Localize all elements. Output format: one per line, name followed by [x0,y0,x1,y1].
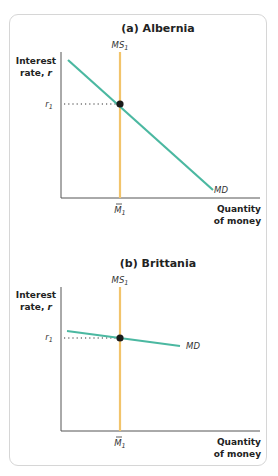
x-axis-label-line2: of money [214,216,261,226]
y-axis-label-line1: Interest [16,56,57,66]
y-axis-label-line2: rate, r [20,302,52,312]
md-label: MD [186,341,200,351]
panel-brittania: (b) Brittania Interest rate, r MS1 r1 MD… [16,257,261,459]
y-axis-label-line2: rate, r [20,68,52,78]
r1-label: r1 [45,332,53,344]
ms-label: MS1 [112,40,129,52]
equilibrium-point [116,100,123,107]
x-axis-label-line1: Quantity [217,204,261,214]
m1-label: M1 [114,205,125,217]
panel-title: (b) Brittania [120,257,196,270]
r1-label: r1 [45,99,53,111]
chart-canvas: (a) Albernia Interest rate, r MS1 r1 MD … [0,0,278,476]
panel-title: (a) Albernia [121,22,194,35]
equilibrium-point [116,334,123,341]
m1-label: M1 [114,438,125,450]
y-axis-label-line1: Interest [16,290,57,300]
x-axis-label-line1: Quantity [217,437,261,447]
panel-albernia: (a) Albernia Interest rate, r MS1 r1 MD … [16,22,261,226]
md-label: MD [214,185,228,195]
x-axis-label-line2: of money [214,449,261,459]
money-demand-line [68,60,213,190]
ms-label: MS1 [112,275,129,287]
